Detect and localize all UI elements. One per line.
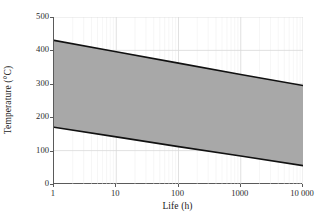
x-tick-mark bbox=[302, 184, 303, 187]
chart-figure: Temperature (°C) 0100200300400500 110100… bbox=[0, 0, 329, 223]
plot-area bbox=[53, 17, 302, 184]
y-tick-mark bbox=[50, 117, 53, 118]
y-tick-text: 0 bbox=[29, 179, 49, 188]
x-tick-mark bbox=[115, 184, 116, 187]
y-tick-mark bbox=[50, 50, 53, 51]
x-tick-label: 10 000 bbox=[302, 188, 326, 198]
x-tick-mark bbox=[53, 184, 54, 187]
x-tick-label: 1000 bbox=[240, 188, 257, 198]
y-tick-mark bbox=[50, 17, 53, 18]
plot-canvas bbox=[54, 17, 303, 184]
y-tick-text: 100 bbox=[29, 146, 49, 155]
y-tick-text: 500 bbox=[29, 12, 49, 21]
x-tick-label: 10 bbox=[115, 188, 124, 198]
y-tick-text: 300 bbox=[29, 79, 49, 88]
x-tick-label: 100 bbox=[178, 188, 191, 198]
x-tick-label: 1 bbox=[53, 188, 57, 198]
y-axis-title: Temperature (°C) bbox=[1, 17, 15, 184]
x-axis-title: Life (h) bbox=[53, 201, 302, 211]
x-tick-text: 100 bbox=[171, 188, 184, 198]
y-tick-mark bbox=[50, 84, 53, 85]
x-tick-text: 10 000 bbox=[290, 188, 314, 198]
y-tick-text: 200 bbox=[29, 112, 49, 121]
x-tick-mark bbox=[240, 184, 241, 187]
x-tick-mark bbox=[178, 184, 179, 187]
y-tick-text: 400 bbox=[29, 45, 49, 54]
x-tick-text: 1 bbox=[51, 188, 55, 198]
x-tick-text: 10 bbox=[111, 188, 120, 198]
x-tick-text: 1000 bbox=[231, 188, 248, 198]
y-tick-mark bbox=[50, 151, 53, 152]
